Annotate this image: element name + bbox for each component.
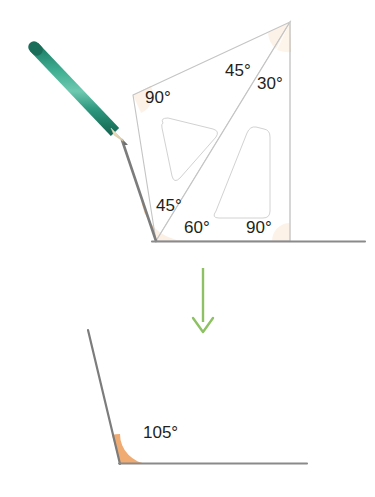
illustration-credit: Ilustrações: Rafael Hatadani	[352, 475, 374, 497]
pencil-icon	[34, 47, 128, 145]
label-angle-45-lower-left: 45°	[156, 196, 182, 215]
credit-line-author: Rafael Hatadani	[363, 475, 374, 497]
label-angle-90-bottom-right: 90°	[246, 218, 272, 237]
label-angle-105: 105°	[143, 423, 178, 442]
top-diagram-group: 90° 45° 30° 45° 60° 90°	[34, 22, 365, 242]
credit-line-role: Ilustrações:	[352, 475, 363, 497]
label-angle-60-bottom: 60°	[184, 218, 210, 237]
ray-up-bottom	[88, 330, 120, 464]
down-arrow-icon	[193, 268, 213, 332]
figure-root: 90° 45° 30° 45° 60° 90° 105° Ilustrações…	[0, 0, 375, 497]
geometry-illustration: 90° 45° 30° 45° 60° 90° 105°	[0, 0, 375, 497]
pencil-body	[34, 47, 115, 132]
label-angle-90-left: 90°	[145, 88, 171, 107]
label-angle-30-top-right: 30°	[257, 74, 283, 93]
bottom-diagram-group: 105°	[88, 330, 307, 464]
pencil-end-cap	[34, 47, 37, 50]
label-angle-45-top: 45°	[225, 61, 251, 80]
